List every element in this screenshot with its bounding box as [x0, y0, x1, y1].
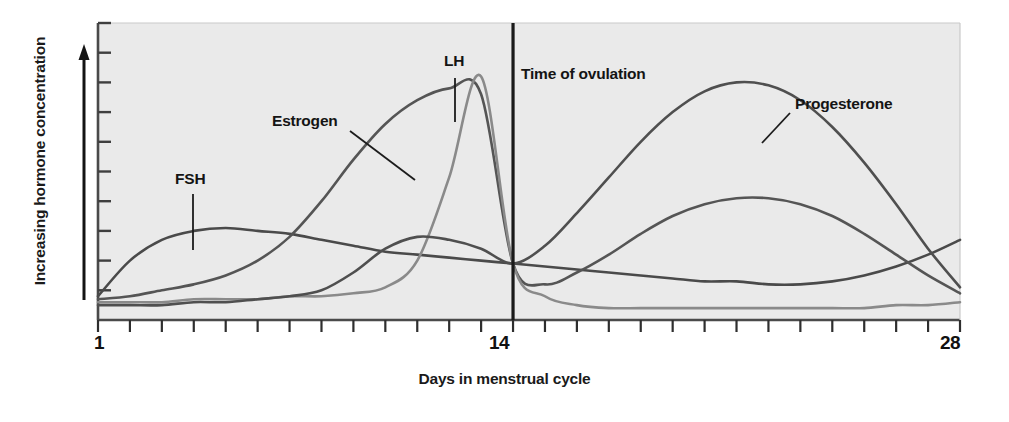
- x-tick-label-28: 28: [940, 332, 960, 354]
- annotation-ovulation: Time of ovulation: [521, 65, 646, 83]
- x-axis-ticks: [98, 320, 960, 332]
- annotation-lh: LH: [444, 52, 464, 70]
- y-axis-arrow: [79, 44, 90, 300]
- x-axis-title: Days in menstrual cycle: [0, 370, 1009, 388]
- annotation-progesterone: Progesterone: [795, 95, 893, 113]
- annotation-fsh: FSH: [175, 170, 205, 188]
- x-tick-label-1: 1: [94, 332, 104, 354]
- annotation-estrogen: Estrogen: [272, 112, 338, 130]
- chart-canvas: [0, 0, 1009, 422]
- x-tick-label-14: 14: [489, 332, 509, 354]
- hormone-cycle-chart: Increasing hormone concentration: [0, 0, 1009, 422]
